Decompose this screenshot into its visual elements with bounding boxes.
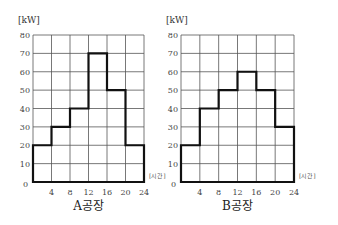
y-tick-label: 30 bbox=[20, 123, 30, 132]
y-axis-unit-label: [kW] bbox=[18, 15, 40, 25]
y-axis-unit-label: [kW] bbox=[166, 15, 188, 25]
origin-label: 0 bbox=[23, 180, 28, 189]
y-tick-label: 10 bbox=[20, 160, 30, 169]
x-axis-unit-label: [시간] bbox=[299, 172, 316, 179]
y-tick-label: 60 bbox=[20, 68, 30, 77]
chart-title: A공장 bbox=[72, 199, 104, 213]
y-tick-label: 40 bbox=[20, 105, 30, 114]
charts-svg: [kW]102030405060708004812162024[시간]A공장 [… bbox=[0, 0, 338, 225]
y-tick-label: 50 bbox=[168, 86, 178, 95]
chart-title: B공장 bbox=[222, 199, 253, 213]
x-tick-label: 4 bbox=[197, 188, 202, 197]
x-tick-label: 24 bbox=[289, 188, 299, 197]
y-tick-label: 70 bbox=[20, 49, 30, 58]
x-tick-label: 20 bbox=[120, 188, 130, 197]
x-tick-label: 16 bbox=[102, 188, 112, 197]
y-tick-label: 20 bbox=[20, 141, 30, 150]
y-tick-label: 80 bbox=[20, 31, 30, 40]
x-tick-label: 12 bbox=[232, 188, 242, 197]
origin-label: 0 bbox=[171, 180, 176, 189]
x-tick-label: 20 bbox=[270, 188, 280, 197]
x-tick-label: 12 bbox=[83, 188, 93, 197]
chart-stage: [kW]102030405060708004812162024[시간]A공장 [… bbox=[0, 0, 338, 225]
y-tick-label: 80 bbox=[168, 31, 178, 40]
chart-b-factory: [kW]102030405060708004812162024[시간]B공장 bbox=[166, 15, 316, 213]
y-tick-label: 30 bbox=[168, 123, 178, 132]
x-tick-label: 8 bbox=[216, 188, 221, 197]
y-tick-label: 40 bbox=[168, 105, 178, 114]
x-tick-label: 16 bbox=[251, 188, 261, 197]
x-tick-label: 24 bbox=[139, 188, 149, 197]
y-tick-label: 60 bbox=[168, 68, 178, 77]
grid bbox=[181, 35, 294, 182]
chart-a-factory: [kW]102030405060708004812162024[시간]A공장 bbox=[18, 15, 166, 213]
x-tick-label: 8 bbox=[67, 188, 72, 197]
y-tick-label: 70 bbox=[168, 49, 178, 58]
x-tick-label: 4 bbox=[49, 188, 54, 197]
y-tick-label: 20 bbox=[168, 141, 178, 150]
y-tick-label: 10 bbox=[168, 160, 178, 169]
y-tick-label: 50 bbox=[20, 86, 30, 95]
x-axis-unit-label: [시간] bbox=[149, 172, 166, 179]
